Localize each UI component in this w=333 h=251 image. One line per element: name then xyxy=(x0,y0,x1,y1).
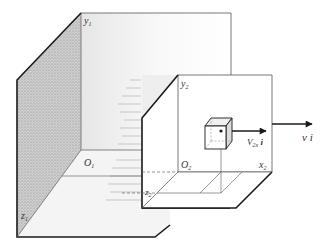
frame2-floor xyxy=(142,172,272,208)
label-vi: v i xyxy=(302,131,313,143)
reference-frames-diagram: y1 O1 z1 y2 O2 x2 z2 V2x i v i xyxy=(0,0,333,251)
label-z2: z2 xyxy=(144,187,152,198)
cube-center-dot xyxy=(219,129,222,132)
